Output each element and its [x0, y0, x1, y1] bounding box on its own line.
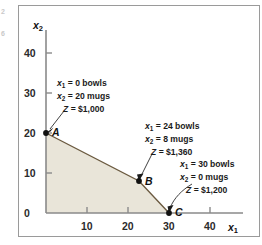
- annotation-b: x1 = 24 bowls x2 = 8 mugs Z = $1,360: [145, 121, 199, 161]
- annotation-a-line-3: Z = $1,000: [57, 104, 110, 117]
- annotation-b-line-1: x1 = 24 bowls: [145, 121, 199, 134]
- y-axis-title: x2: [33, 19, 43, 33]
- annotation-c-line-3: Z = $1,200: [180, 185, 234, 198]
- vertex-label-c: C: [175, 206, 183, 218]
- plot-canvas: [0, 0, 262, 245]
- vertex-point-a: [43, 130, 49, 136]
- y-tick-label-30: 30: [24, 87, 36, 99]
- vertex-point-c: [166, 210, 172, 216]
- annotation-a-line-2: x2 = 20 mugs: [57, 91, 110, 104]
- annotation-a: x1 = 0 bowls x2 = 20 mugs Z = $1,000: [57, 78, 110, 118]
- x-tick-label-40: 40: [204, 220, 216, 232]
- y-tick-label-40: 40: [24, 47, 36, 59]
- figure-root: 2 6 x2 x1: [0, 0, 262, 245]
- y-tick-label-0: 0: [24, 207, 30, 219]
- vertex-label-b: B: [145, 175, 153, 187]
- vertex-label-a: A: [52, 126, 60, 138]
- y-tick-label-10: 10: [24, 167, 36, 179]
- x-tick-label-10: 10: [81, 220, 93, 232]
- x-tick-label-20: 20: [122, 220, 134, 232]
- y-tick-label-20: 20: [24, 127, 36, 139]
- annotation-c-line-2: x2 = 0 mugs: [180, 172, 234, 185]
- vertex-point-b: [136, 178, 142, 184]
- annotation-b-line-2: x2 = 8 mugs: [145, 134, 199, 147]
- annotation-c: x1 = 30 bowls x2 = 0 mugs Z = $1,200: [180, 159, 234, 199]
- annotation-a-line-1: x1 = 0 bowls: [57, 78, 110, 91]
- annotation-c-line-1: x1 = 30 bowls: [180, 159, 234, 172]
- x-axis-title: x1: [228, 221, 238, 235]
- x-tick-label-30: 30: [163, 220, 175, 232]
